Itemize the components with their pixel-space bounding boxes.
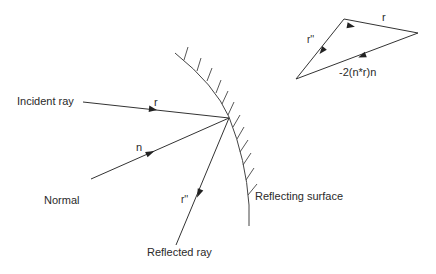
reflected-ray-line [176,118,229,245]
reflection-diagram: Incident ray Normal Reflected ray Reflec… [0,0,436,274]
incident-vector-label: r [154,96,158,108]
normal-label: Normal [44,194,79,206]
surface-hatch-marks [184,47,257,195]
incident-ray-label: Incident ray [17,95,74,107]
reflected-vector-label: r'' [181,194,188,206]
reflecting-surface-label: Reflecting surface [255,190,343,202]
triangle-r-reflected-label: r'' [307,34,314,46]
triangle-normal-component-label: -2(n*r)n [339,66,376,78]
normal-line [91,118,229,179]
triangle-r-label: r [382,11,386,23]
normal-vector-label: n [136,141,142,153]
triangle-arrowheads [317,22,367,60]
diagram-drawing [0,0,436,274]
reflected-ray-label: Reflected ray [147,246,212,258]
